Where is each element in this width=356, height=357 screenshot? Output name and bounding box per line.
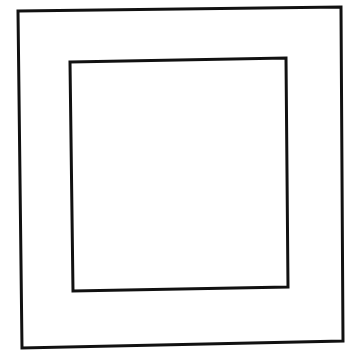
- outer-square: [18, 7, 343, 348]
- nested-squares-diagram: [0, 0, 356, 357]
- inner-square: [70, 58, 288, 291]
